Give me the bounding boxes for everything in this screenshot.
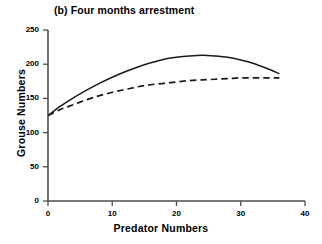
x-tick-label: 0 bbox=[36, 209, 60, 218]
x-ticks-group bbox=[48, 201, 305, 206]
x-tick-label: 40 bbox=[293, 209, 317, 218]
y-axis-title: Grouse Numbers bbox=[15, 48, 27, 178]
series-group bbox=[48, 55, 279, 115]
chart-figure: (b) Four months arrestment 0501001502002… bbox=[0, 0, 322, 244]
x-tick-label: 20 bbox=[165, 209, 189, 218]
y-tick-label: 0 bbox=[15, 196, 39, 205]
axes-group bbox=[48, 30, 305, 201]
y-tick-label: 250 bbox=[15, 25, 39, 34]
x-axis-title: Predator Numbers bbox=[0, 222, 322, 234]
plot-area bbox=[0, 0, 322, 244]
x-tick-label: 10 bbox=[100, 209, 124, 218]
series-line-solid-curve bbox=[48, 55, 279, 115]
x-tick-label: 30 bbox=[229, 209, 253, 218]
series-line-dashed-curve bbox=[48, 78, 279, 116]
